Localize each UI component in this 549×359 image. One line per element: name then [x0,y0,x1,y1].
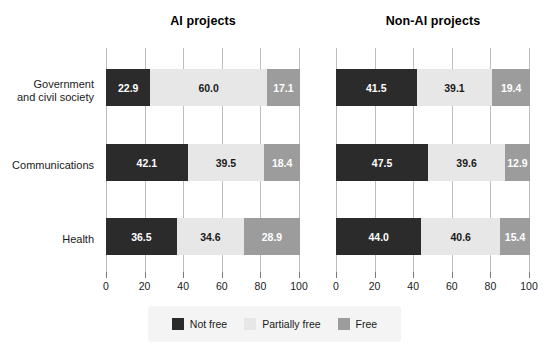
bar-segment-free: 15.4 [500,218,530,255]
bar-segment-not-free: 22.9 [106,69,150,106]
x-ticklabel-0: 0 [333,280,339,292]
legend-item-free: Free [338,318,378,330]
x-ticklabel-60: 60 [446,280,458,292]
x-tick-60 [452,272,453,278]
bar-row-government-and-civil-society: 22.9 60.0 17.1 [106,69,300,106]
x-ticklabel-40: 40 [177,280,189,292]
legend-swatch-not-free-icon [172,318,184,330]
bar-segment-free: 28.9 [244,218,300,255]
x-ticklabel-100: 100 [520,280,538,292]
x-tick-40 [413,272,414,278]
legend-label-partially-free: Partially free [262,318,320,330]
x-ticklabel-80: 80 [255,280,267,292]
legend-label-free: Free [356,318,378,330]
legend-swatch-partially-free-icon [244,318,256,330]
x-tick-40 [183,272,184,278]
legend-item-not-free: Not free [172,318,227,330]
bar-row-government-and-civil-society: 41.5 39.1 19.4 [336,69,530,106]
plot-area-non-ai-projects: 41.5 39.1 19.4 47.5 39.6 12.9 44.0 40.6 … [336,48,530,272]
bar-segment-partially-free: 39.1 [417,69,493,106]
x-ticklabel-20: 20 [369,280,381,292]
bar-segment-partially-free: 39.6 [428,144,505,181]
x-tick-80 [260,272,261,278]
category-label-government-and-civil-society: Government and civil society [0,78,94,104]
x-ticklabel-40: 40 [407,280,419,292]
chart-legend: Not free Partially free Free [148,306,401,342]
bar-segment-free: 18.4 [264,144,300,181]
x-tick-0 [106,272,107,278]
bar-segment-partially-free: 60.0 [150,69,266,106]
x-ticklabel-100: 100 [290,280,308,292]
bar-segment-not-free: 41.5 [336,69,417,106]
bar-segment-free: 12.9 [505,144,530,181]
category-label-communications: Communications [0,159,94,172]
bar-segment-not-free: 42.1 [106,144,188,181]
legend-swatch-free-icon [338,318,350,330]
bar-row-health: 44.0 40.6 15.4 [336,218,530,255]
bar-row-health: 36.5 34.6 28.9 [106,218,300,255]
legend-label-not-free: Not free [190,318,227,330]
x-tick-20 [375,272,376,278]
x-ticklabel-0: 0 [103,280,109,292]
x-ticklabel-80: 80 [485,280,497,292]
x-tick-100 [529,272,530,278]
panel-title-ai-projects: AI projects [106,14,300,28]
x-ticklabel-60: 60 [216,280,228,292]
bar-segment-free: 19.4 [492,69,530,106]
x-axis-ai-projects: 0 20 40 60 80 100 [106,272,300,294]
bar-segment-partially-free: 39.5 [188,144,265,181]
x-tick-80 [490,272,491,278]
x-ticklabel-20: 20 [139,280,151,292]
x-axis-non-ai-projects: 0 20 40 60 80 100 [336,272,530,294]
category-axis-labels: Government and civil society Communicati… [0,48,100,272]
x-tick-20 [145,272,146,278]
category-label-health: Health [0,233,94,246]
bar-row-communications: 47.5 39.6 12.9 [336,144,530,181]
category-label-line2: and civil society [0,91,94,104]
plot-area-ai-projects: 22.9 60.0 17.1 42.1 39.5 18.4 36.5 34.6 … [106,48,300,272]
panel-title-non-ai-projects: Non-AI projects [336,14,530,28]
bar-row-communications: 42.1 39.5 18.4 [106,144,300,181]
bar-segment-partially-free: 40.6 [421,218,500,255]
bar-segment-not-free: 36.5 [106,218,177,255]
legend-item-partially-free: Partially free [244,318,320,330]
x-tick-0 [336,272,337,278]
bar-segment-free: 17.1 [267,69,300,106]
bar-segment-not-free: 44.0 [336,218,421,255]
category-label-line1: Government [0,78,94,91]
bar-segment-partially-free: 34.6 [177,218,244,255]
bar-segment-not-free: 47.5 [336,144,428,181]
x-tick-60 [222,272,223,278]
stacked-bar-chart-figure: AI projects Non-AI projects Government a… [0,0,549,359]
x-tick-100 [299,272,300,278]
